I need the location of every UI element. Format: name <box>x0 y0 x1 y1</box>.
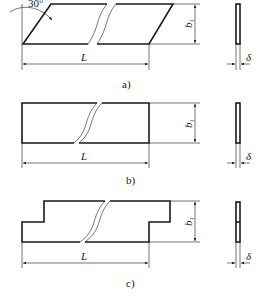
break-line-b-right <box>79 103 102 143</box>
figure-a: 30° b1 L δ a) <box>10 0 252 91</box>
L-label-c: L <box>80 250 87 262</box>
caption-b: b) <box>126 174 136 187</box>
break-line-a-right <box>97 4 116 44</box>
break-line-a-left <box>88 4 107 44</box>
specimen-b-left-outline <box>22 103 97 143</box>
delta-label-a: δ <box>246 51 252 63</box>
figure-b: b1 L δ b) <box>22 103 252 187</box>
specimen-a-left-outline <box>23 4 107 44</box>
caption-a: a) <box>122 78 131 91</box>
side-view-b <box>236 103 240 143</box>
specimen-a-right-outline <box>97 4 173 44</box>
caption-c: c) <box>126 277 135 290</box>
figure-c: b1 L δ c) <box>22 201 252 290</box>
angle-arc <box>10 7 52 20</box>
L-label-b: L <box>80 150 87 162</box>
delta-label-c: δ <box>246 250 252 262</box>
b1-label-b: b1 <box>182 119 196 128</box>
delta-label-b: δ <box>246 150 252 162</box>
specimen-diagram: 30° b1 L δ a) b1 L δ b) <box>0 0 264 303</box>
specimen-c-right-outline <box>85 201 170 242</box>
b1-label-a: b1 <box>182 19 196 28</box>
angle-label: 30° <box>28 0 43 9</box>
b1-label-c: b1 <box>182 217 196 226</box>
L-label-a: L <box>80 51 87 63</box>
break-line-c-right <box>85 201 110 242</box>
specimen-c-left-outline <box>22 201 105 242</box>
break-line-c-left <box>80 201 105 242</box>
specimen-b-right-outline <box>79 103 149 143</box>
break-line-b-left <box>74 103 97 143</box>
side-view-a <box>236 4 240 44</box>
